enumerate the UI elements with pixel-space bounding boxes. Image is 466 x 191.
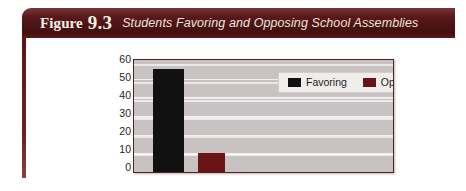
- legend-entry-favoring: Favoring: [288, 77, 347, 88]
- figure-label: Figure: [40, 15, 83, 32]
- y-tick-label: 60: [104, 54, 131, 64]
- legend-label-opposing: Opposing: [381, 77, 394, 88]
- legend-label-favoring: Favoring: [306, 77, 347, 88]
- chart-legend: Favoring Opposing: [278, 72, 394, 93]
- figure-container: Figure 9.3 Students Favoring and Opposin…: [0, 0, 466, 191]
- bar-opposing: [198, 153, 225, 172]
- y-tick-label: 10: [104, 144, 131, 154]
- legend-swatch-opposing: [363, 78, 376, 87]
- y-tick-label: 30: [104, 108, 131, 118]
- figure-header-text: Figure 9.3 Students Favoring and Opposin…: [40, 8, 418, 38]
- left-vertical-rule: [22, 36, 26, 178]
- chart: 60 50 40 30 20 10 0 Favoring: [104, 55, 404, 180]
- figure-title: Students Favoring and Opposing School As…: [122, 16, 418, 30]
- figure-header-banner: Figure 9.3 Students Favoring and Opposin…: [22, 8, 455, 38]
- y-tick-label: 50: [104, 72, 131, 82]
- bar-favoring: [153, 69, 184, 172]
- figure-number: 9.3: [88, 12, 112, 34]
- y-tick-label: 20: [104, 126, 131, 136]
- y-axis: 60 50 40 30 20 10 0: [104, 55, 131, 173]
- y-tick-label: 40: [104, 90, 131, 100]
- legend-swatch-favoring: [288, 78, 301, 87]
- plot-area: Favoring Opposing: [133, 59, 394, 173]
- y-tick-label: 0: [104, 162, 131, 172]
- legend-entry-opposing: Opposing: [363, 77, 394, 88]
